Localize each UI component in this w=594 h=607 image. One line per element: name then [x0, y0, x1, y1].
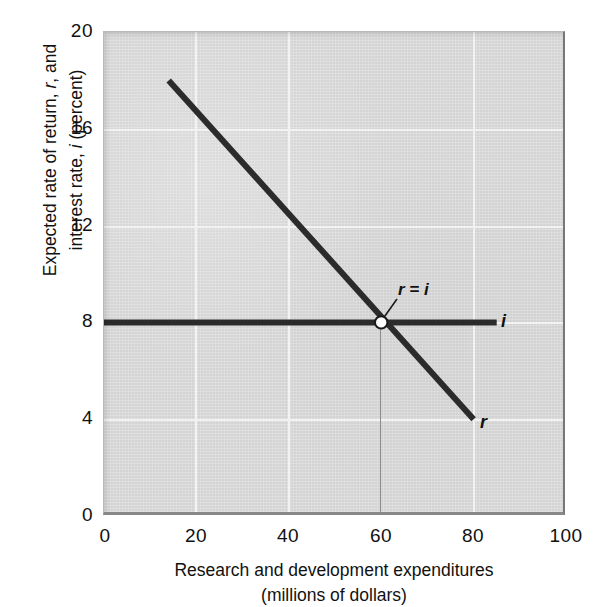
annotation-leader-line: [384, 299, 398, 318]
y-tick-4: 4: [47, 407, 93, 429]
y-axis-title: Expected rate of return, r, and interest…: [37, 44, 89, 277]
curve-label-r: r: [480, 412, 487, 433]
y-axis-title-part-2: , and: [40, 44, 60, 83]
x-axis-tick-labels: 0 20 40 60 80 100: [0, 525, 594, 553]
chart-figure: r = i i r 20 16 12 8 4 0 0 20 40 60 80 1…: [0, 0, 594, 607]
y-axis-title-wrapper: Expected rate of return, r, and interest…: [33, 0, 93, 370]
x-tick-0: 0: [75, 525, 135, 547]
x-axis-title: Research and development expenditures (m…: [103, 558, 565, 607]
x-tick-80: 80: [443, 525, 503, 547]
x-tick-20: 20: [166, 525, 226, 547]
y-axis-title-symbol-r: r: [40, 83, 60, 89]
plot-area: r = i i r: [103, 31, 565, 515]
x-tick-100: 100: [536, 525, 594, 547]
curve-layer: [104, 32, 565, 515]
curve-r: [169, 80, 474, 419]
x-axis-title-line-1: Research and development expenditures: [103, 558, 565, 583]
x-tick-40: 40: [258, 525, 318, 547]
y-axis-title-part-4: (percent): [66, 70, 86, 145]
x-axis-title-line-2: (millions of dollars): [103, 583, 565, 607]
equilibrium-marker: [375, 316, 387, 328]
y-axis-title-part-1: Expected rate of return,: [40, 89, 60, 277]
y-axis-title-part-3: interest rate,: [66, 148, 86, 250]
equilibrium-annotation-label: r = i: [398, 280, 429, 300]
y-axis-title-symbol-i: i: [66, 144, 86, 148]
curve-label-i: i: [501, 311, 506, 332]
y-tick-0: 0: [47, 504, 93, 526]
x-tick-60: 60: [351, 525, 411, 547]
